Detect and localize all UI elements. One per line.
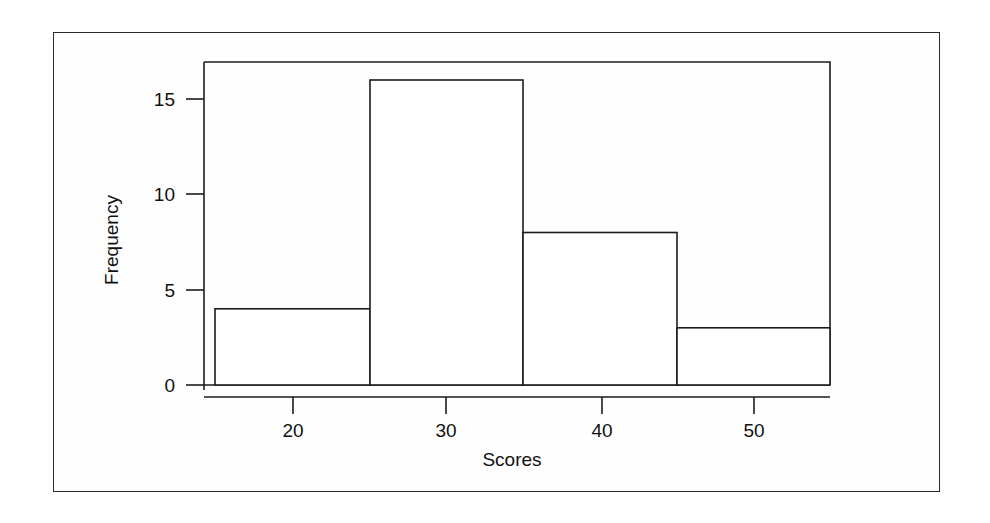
histogram-svg: 0 5 10 15 20 30 40 50 Scores Frequency — [0, 0, 990, 523]
y-tick-label-10: 10 — [154, 184, 175, 205]
bar-bin-25-35 — [370, 80, 523, 385]
x-tick-label-20: 20 — [282, 420, 303, 441]
x-tick-label-40: 40 — [591, 420, 612, 441]
bar-bin-15-25 — [215, 309, 370, 385]
bar-bin-35-45 — [523, 233, 677, 386]
x-axis-title: Scores — [482, 449, 541, 470]
y-tick-label-5: 5 — [164, 280, 175, 301]
x-tick-label-30: 30 — [435, 420, 456, 441]
y-tick-label-15: 15 — [154, 89, 175, 110]
y-axis-title: Frequency — [101, 195, 122, 285]
y-tick-label-0: 0 — [164, 375, 175, 396]
x-tick-label-50: 50 — [743, 420, 764, 441]
histogram-figure: 0 5 10 15 20 30 40 50 Scores Frequency — [0, 0, 990, 523]
bar-bin-45-55 — [677, 328, 830, 385]
